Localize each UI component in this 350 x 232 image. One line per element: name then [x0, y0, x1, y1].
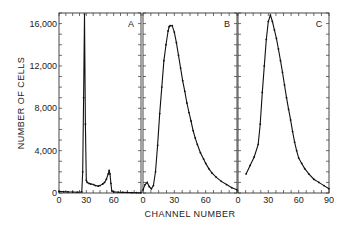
data-point	[159, 113, 161, 115]
data-point	[184, 90, 186, 92]
data-point	[102, 183, 104, 185]
y-tick-label: 16,000	[29, 19, 57, 29]
data-point	[269, 14, 271, 16]
data-point	[200, 152, 202, 154]
data-point	[157, 144, 159, 146]
data-point	[188, 112, 190, 114]
data-point	[85, 179, 87, 181]
data-point	[296, 150, 298, 152]
data-point	[99, 185, 101, 187]
series-line	[246, 15, 329, 189]
data-point	[83, 97, 85, 99]
panel-a: 03060A	[56, 13, 141, 205]
data-point	[109, 173, 111, 175]
data-point	[211, 172, 213, 174]
data-point	[205, 162, 207, 164]
data-point	[150, 188, 152, 190]
series-line	[59, 14, 141, 193]
data-point	[294, 141, 296, 143]
data-point	[111, 190, 113, 192]
data-point	[81, 191, 83, 193]
data-point	[313, 178, 315, 180]
data-point	[161, 86, 163, 88]
x-tick-label: 30	[169, 195, 179, 205]
panel-frame	[143, 13, 237, 193]
x-tick-label: 60	[294, 195, 304, 205]
data-point	[274, 29, 276, 31]
panel-label: B	[224, 19, 230, 29]
x-tick-label: 30	[263, 195, 273, 205]
data-point	[190, 120, 192, 122]
data-point	[105, 178, 107, 180]
data-point	[308, 173, 310, 175]
x-tick-label: 90	[324, 195, 334, 205]
panel-frame	[238, 13, 329, 193]
panel-c: 0306090C	[235, 13, 334, 205]
data-point	[203, 158, 205, 160]
x-axis-title: CHANNEL NUMBER	[144, 209, 235, 219]
data-point	[280, 60, 282, 62]
data-point	[301, 162, 303, 164]
data-point	[178, 54, 180, 56]
data-point	[97, 185, 99, 187]
data-point	[226, 184, 228, 186]
data-point	[284, 84, 286, 86]
data-point	[76, 191, 78, 193]
panel-b: 03060B	[140, 13, 237, 205]
data-point	[192, 130, 194, 132]
data-point	[144, 184, 146, 186]
data-point	[304, 168, 306, 170]
panel-label: C	[316, 19, 323, 29]
data-point	[113, 191, 115, 193]
data-point	[58, 191, 60, 193]
panels: 03060A03060B0306090C	[56, 13, 334, 205]
data-point	[126, 192, 128, 194]
data-point	[107, 173, 109, 175]
data-point	[167, 30, 169, 32]
data-point	[67, 191, 69, 193]
data-point	[290, 119, 292, 121]
data-point	[261, 92, 263, 94]
data-point	[72, 191, 74, 193]
x-tick-label: 0	[235, 195, 240, 205]
data-point	[194, 137, 196, 139]
data-point	[176, 42, 178, 44]
data-point	[148, 186, 150, 188]
y-axis: 04,0008,00012,00016,000	[29, 19, 57, 198]
x-tick-label: 0	[140, 195, 145, 205]
y-axis-title: NUMBER OF CELLS	[16, 57, 26, 150]
panel-label: A	[128, 19, 134, 29]
data-point	[171, 25, 173, 27]
data-point	[323, 185, 325, 187]
data-point	[95, 185, 97, 187]
data-point	[142, 189, 144, 191]
data-point	[245, 173, 247, 175]
data-point	[282, 71, 284, 73]
data-point	[169, 25, 171, 27]
data-point	[318, 182, 320, 184]
panel-frame	[59, 13, 141, 193]
data-point	[278, 48, 280, 50]
data-point	[186, 102, 188, 104]
data-point	[122, 191, 124, 193]
data-point	[85, 123, 87, 125]
data-point	[136, 192, 138, 194]
data-point	[82, 171, 84, 173]
data-point	[131, 192, 133, 194]
data-point	[182, 80, 184, 82]
data-point	[208, 168, 210, 170]
data-point	[298, 157, 300, 159]
series-line	[143, 26, 237, 190]
data-point	[249, 165, 251, 167]
data-point	[231, 187, 233, 189]
data-point	[155, 171, 157, 173]
y-tick-label: 8,000	[34, 103, 57, 113]
data-point	[328, 188, 330, 190]
x-tick-label: 60	[109, 195, 119, 205]
data-point	[104, 182, 106, 184]
data-point	[93, 184, 95, 186]
data-point	[265, 39, 267, 41]
data-point	[196, 143, 198, 145]
y-tick-label: 12,000	[29, 61, 57, 71]
x-tick-label: 0	[56, 195, 61, 205]
